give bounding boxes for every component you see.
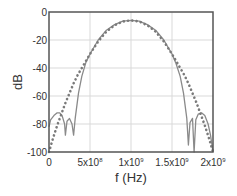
line-chart: 0-20-40-60-80-100 05x1081x1091.5x1092x10… bbox=[0, 0, 237, 196]
x-axis-label: f (Hz) bbox=[115, 170, 147, 185]
x-tick-label: 5x108 bbox=[77, 157, 103, 168]
x-tick-label: 1.5x109 bbox=[155, 157, 189, 168]
y-tick-label: -60 bbox=[33, 91, 48, 102]
y-tick-label: -80 bbox=[33, 119, 48, 130]
y-tick-label: -40 bbox=[33, 63, 48, 74]
y-tick-label: -100 bbox=[27, 147, 47, 158]
y-tick-label: 0 bbox=[41, 7, 47, 18]
y-axis-ticks: 0-20-40-60-80-100 bbox=[27, 7, 47, 158]
x-tick-label: 2x109 bbox=[200, 157, 226, 168]
x-axis-ticks: 05x1081x1091.5x1092x109 bbox=[46, 157, 226, 168]
x-tick-label: 1x109 bbox=[118, 157, 144, 168]
x-tick-label: 0 bbox=[46, 157, 52, 168]
y-axis-label: dB bbox=[10, 74, 25, 90]
y-tick-label: -20 bbox=[33, 35, 48, 46]
